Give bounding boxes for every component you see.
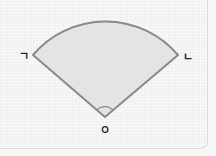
label-center: ㅇ: [100, 124, 110, 137]
label-point-left: ㄱ: [19, 50, 29, 63]
label-point-right: ㄴ: [183, 51, 193, 64]
sector-diagram: ㄱ ㄴ ㅇ: [0, 0, 216, 156]
sector-shape: [33, 21, 178, 117]
